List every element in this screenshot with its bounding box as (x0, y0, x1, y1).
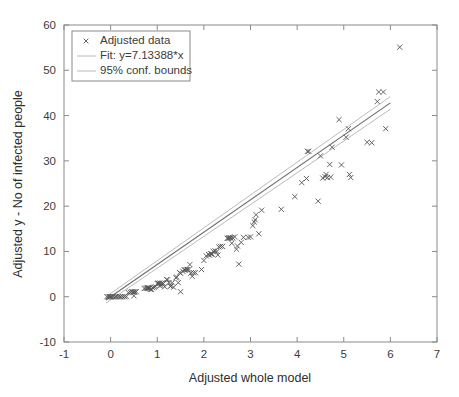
x-tick-label: 3 (247, 348, 253, 360)
y-axis-label: Adjusted y - No of infected people (11, 90, 25, 278)
y-tick-label: 10 (43, 245, 56, 257)
y-tick-label: 0 (50, 291, 56, 303)
x-tick-label: 2 (201, 348, 207, 360)
x-tick-label: 0 (107, 348, 113, 360)
legend-label: Fit: y=7.13388*x (100, 49, 184, 61)
y-tick-label: 20 (43, 200, 56, 212)
x-tick-label: 1 (154, 348, 160, 360)
figure-container: -101234567 -100102030405060 Adjusted who… (0, 0, 459, 397)
x-tick-label: -1 (59, 348, 69, 360)
y-tick-label: 30 (43, 155, 56, 167)
y-tick-label: 40 (43, 110, 56, 122)
x-tick-label: 4 (294, 348, 301, 360)
x-tick-label: 5 (341, 348, 347, 360)
legend[interactable]: Adjusted dataFit: y=7.13388*x95% conf. b… (72, 31, 192, 81)
x-tick-label: 6 (387, 348, 393, 360)
y-tick-label: 60 (43, 19, 56, 31)
x-axis-label: Adjusted whole model (189, 371, 311, 385)
legend-label: Adjusted data (100, 34, 171, 46)
x-tick-label: 7 (434, 348, 440, 360)
legend-label: 95% conf. bounds (100, 64, 192, 76)
scatter-plot: -101234567 -100102030405060 Adjusted who… (0, 0, 459, 397)
y-tick-label: 50 (43, 64, 56, 76)
y-tick-label: -10 (39, 336, 56, 348)
